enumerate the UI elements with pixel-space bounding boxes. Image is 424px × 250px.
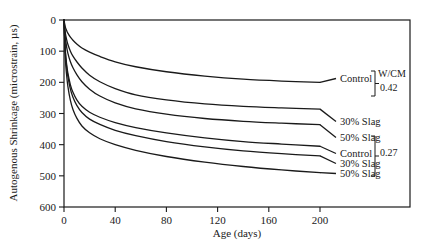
legend-label-042-30--slag: 30% Slag [340,116,381,127]
y-tick-label: 300 [40,108,57,120]
y-tick-label: 500 [40,170,57,182]
x-tick-label: 80 [161,214,173,226]
chart-svg: 0100200300400500600 04080120160200 Contr… [0,0,424,250]
y-tick-label: 200 [40,76,57,88]
wcm-header-label: W/CM [378,68,406,79]
y-tick-label: 400 [40,139,57,151]
y-tick-label: 600 [40,201,57,213]
x-axis-title: Age (days) [213,227,262,240]
y-tick-label: 0 [51,14,57,26]
x-tick-label: 0 [61,214,67,226]
y-axis-title: Autogenous Shrinkage (microstrain, µs) [7,24,20,201]
wcm-027-label: 0.27 [380,147,398,158]
x-tick-label: 160 [261,214,278,226]
y-tick-label: 100 [40,45,57,57]
x-tick-label: 200 [312,214,329,226]
leader-line [320,173,336,174]
x-tick-label: 40 [110,214,122,226]
legend-label-042-control: Control [340,73,372,84]
wcm-042-label: 0.42 [380,82,398,93]
figure-container: 0100200300400500600 04080120160200 Contr… [0,0,424,250]
x-tick-label: 120 [209,214,226,226]
